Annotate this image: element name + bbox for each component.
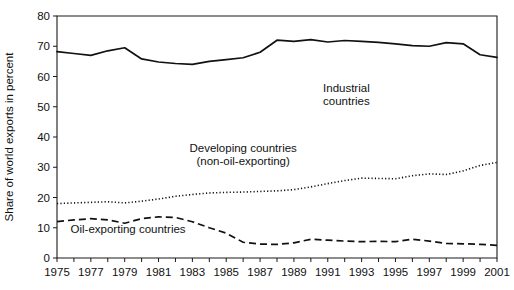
- series-label-text: (non-oil-exporting): [196, 155, 289, 167]
- y-tick-label: 60: [37, 71, 50, 83]
- x-tick-label: 1995: [383, 266, 409, 278]
- x-tick-label: 1975: [44, 266, 70, 278]
- series-label-text: Industrial: [323, 82, 370, 94]
- x-tick-label: 1983: [180, 266, 206, 278]
- share-of-world-exports-line-chart: 01020304050607080 1975197719791981198319…: [0, 0, 514, 290]
- x-tick-label: 1987: [247, 266, 273, 278]
- y-tick-label: 40: [37, 131, 50, 143]
- x-tick-label: 1989: [281, 266, 307, 278]
- y-tick-label: 70: [37, 40, 50, 52]
- x-tick-label: 1999: [450, 266, 476, 278]
- y-tick-label: 50: [37, 101, 50, 113]
- y-tick-label: 30: [37, 161, 50, 173]
- y-tick-label: 20: [37, 192, 50, 204]
- x-tick-label: 1993: [349, 266, 375, 278]
- x-tick-label: 1981: [146, 266, 172, 278]
- x-tick-label: 2001: [484, 266, 510, 278]
- x-tick-label: 1997: [417, 266, 443, 278]
- y-tick-label: 80: [37, 10, 50, 22]
- y-axis-title: Share of world exports in percent: [3, 52, 15, 222]
- y-tick-label: 0: [44, 252, 50, 264]
- x-tick-label: 1977: [78, 266, 104, 278]
- y-tick-label: 10: [37, 222, 50, 234]
- x-tick-label: 1991: [315, 266, 341, 278]
- series-label-text: countries: [323, 95, 370, 107]
- series-label-text: Developing countries: [189, 142, 297, 154]
- series-label-text: Oil-exporting countries: [71, 223, 186, 235]
- chart-container: 01020304050607080 1975197719791981198319…: [0, 0, 514, 290]
- x-tick-label: 1985: [213, 266, 239, 278]
- x-tick-label: 1979: [112, 266, 138, 278]
